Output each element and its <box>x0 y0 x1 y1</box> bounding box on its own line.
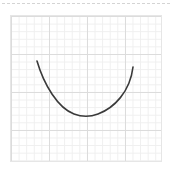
top-dashed-border <box>2 3 170 4</box>
graph-paper-grid[interactable] <box>10 15 162 162</box>
drawing-canvas[interactable] <box>0 0 172 171</box>
